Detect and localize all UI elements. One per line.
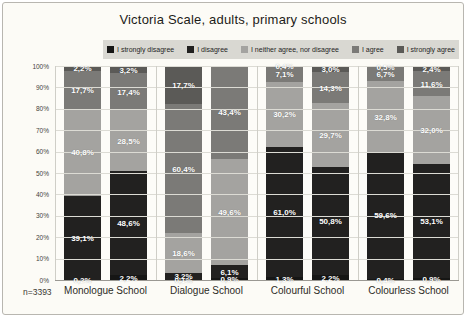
- bar-segment-value-label: 0,4%: [275, 62, 293, 71]
- gridline: [55, 280, 459, 281]
- y-axis-tick-label: 10%: [3, 255, 49, 262]
- category-label: Colourful School: [257, 285, 358, 296]
- legend-swatch-icon: [397, 46, 404, 53]
- bar-segment: 60,4%: [165, 104, 202, 233]
- category-separator-line: [358, 66, 359, 280]
- bar-segment-value-label: 30,2%: [273, 110, 296, 119]
- legend-swatch-icon: [107, 46, 114, 53]
- bar-segment-value-label: 0,4%: [376, 275, 394, 284]
- legend-item: I neither agree, nor disagree: [241, 46, 339, 53]
- bar-segment-value-label: 3,0%: [321, 65, 339, 74]
- bar-segment-value-label: 6,7%: [376, 70, 394, 79]
- chart-card: Victoria Scale, adults, primary schools …: [2, 2, 464, 315]
- bar-segment: 28,5%: [110, 110, 147, 171]
- bar-segment: 43,4%: [211, 66, 248, 159]
- legend-swatch-icon: [187, 46, 194, 53]
- bar-segment-value-label: 60,4%: [172, 164, 195, 173]
- bar-segment: 18,6%: [165, 233, 202, 273]
- legend-item: I disagree: [187, 46, 228, 53]
- bar-segment-value-label: 39,1%: [71, 233, 94, 242]
- bar-segment: 11,6%: [413, 71, 450, 96]
- category-separator-line: [257, 66, 258, 280]
- bar-segment-value-label: 3,2%: [119, 65, 137, 74]
- legend-swatch-icon: [352, 46, 359, 53]
- bar-segment-value-label: 28,5%: [117, 136, 140, 145]
- category-label: Dialogue School: [156, 285, 257, 296]
- bar-segment-value-label: 0,9%: [422, 275, 440, 284]
- bar-segment-value-label: 0,5%: [376, 62, 394, 71]
- y-axis-tick-label: 80%: [3, 105, 49, 112]
- bar-segment-value-label: 40,8%: [71, 148, 94, 157]
- y-axis-tick-label: 30%: [3, 212, 49, 219]
- bar-segment: 29,7%: [312, 103, 349, 167]
- category-label: Monologue School: [55, 285, 156, 296]
- bar-segment-value-label: 50,8%: [319, 216, 342, 225]
- bar-segment: 3,0%: [312, 66, 349, 72]
- bar-segment: 30,2%: [266, 82, 303, 147]
- bar-segment: 17,4%: [110, 73, 147, 110]
- bar-segment-value-label: 14,3%: [319, 83, 342, 92]
- bar-segment: 17,7%: [165, 66, 202, 104]
- y-axis-tick-label: 0%: [3, 277, 49, 284]
- bar-segment: 32,8%: [367, 81, 404, 151]
- plot-area: 0,2%39,1%40,8%17,7%2,2%2,2%48,6%28,5%17,…: [55, 66, 459, 280]
- y-axis-tick-label: 40%: [3, 191, 49, 198]
- bar-segment-value-label: 17,7%: [71, 85, 94, 94]
- bar-segment-value-label: 2,2%: [119, 273, 137, 282]
- bar-segment: 17,7%: [64, 71, 101, 109]
- legend-item: I strongly disagree: [107, 46, 174, 53]
- bar-segment: 53,1%: [413, 164, 450, 278]
- legend-item-label: I strongly agree: [407, 46, 455, 53]
- y-axis-tick-label: 90%: [3, 84, 49, 91]
- legend-item-label: I neither agree, nor disagree: [251, 46, 339, 53]
- y-axis-tick-label: 100%: [3, 63, 49, 70]
- category-label: Colourless School: [358, 285, 459, 296]
- bar-segment-value-label: 53,1%: [420, 217, 443, 226]
- y-axis: 100%90%80%70%60%50%40%30%20%10%0%: [3, 66, 53, 280]
- bar-segment-value-label: 59,6%: [374, 211, 397, 220]
- bar-segment: 48,6%: [110, 171, 147, 275]
- category-separator-line: [55, 66, 56, 280]
- bar-segment-value-label: 17,7%: [172, 80, 195, 89]
- bar-segment: 3,2%: [165, 273, 202, 280]
- bar-segment-value-label: 2,4%: [422, 64, 440, 73]
- bar-segment-value-label: 6,1%: [220, 267, 238, 276]
- bar-segment-value-label: 7,1%: [275, 70, 293, 79]
- legend-item: I strongly agree: [397, 46, 455, 53]
- category-axis: Monologue SchoolDialogue SchoolColourful…: [55, 285, 459, 296]
- legend-swatch-icon: [241, 46, 248, 53]
- y-axis-tick-label: 20%: [3, 234, 49, 241]
- bar-segment-value-label: 32,8%: [374, 112, 397, 121]
- legend-item-label: I agree: [362, 46, 384, 53]
- chart-title: Victoria Scale, adults, primary schools: [3, 12, 463, 27]
- bar-segment-value-label: 17,4%: [117, 87, 140, 96]
- bar-segment-value-label: 2,2%: [73, 64, 91, 73]
- y-axis-tick-label: 70%: [3, 127, 49, 134]
- bar-segment-value-label: 3,2%: [174, 272, 192, 281]
- legend-item-label: I disagree: [197, 46, 228, 53]
- bar-segment-value-label: 1,3%: [275, 274, 293, 283]
- bar-segment: 3,2%: [110, 66, 147, 73]
- bar-segment-value-label: 2,2%: [321, 273, 339, 282]
- legend-item-label: I strongly disagree: [117, 46, 174, 53]
- category-separator-line: [156, 66, 157, 280]
- y-axis-tick-label: 60%: [3, 148, 49, 155]
- bar-segment-value-label: 49,6%: [218, 207, 241, 216]
- legend-item: I agree: [352, 46, 384, 53]
- sample-size-label: n=3393: [23, 287, 52, 297]
- category-separator-line: [458, 66, 459, 280]
- bar-segment-value-label: 11,6%: [420, 79, 442, 88]
- bar-segment-value-label: 18,6%: [172, 249, 195, 258]
- bar-segment-value-label: 61,0%: [273, 207, 296, 216]
- bar-segment-value-label: 29,7%: [319, 130, 342, 139]
- bar-segment-value-label: 48,6%: [117, 219, 140, 228]
- bar-segment: 49,6%: [211, 159, 248, 265]
- bar-segment-value-label: 43,4%: [218, 108, 241, 117]
- bar-segment-value-label: 0,2%: [73, 275, 91, 284]
- y-axis-tick-label: 50%: [3, 170, 49, 177]
- bar-segment-value-label: 32,0%: [420, 126, 443, 135]
- legend: I strongly disagreeI disagreeI neither a…: [103, 40, 459, 59]
